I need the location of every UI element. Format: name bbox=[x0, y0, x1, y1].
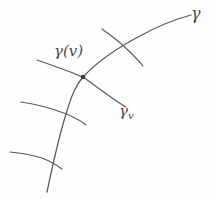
transversal-middle-left-curve bbox=[21, 102, 86, 125]
label-gamma-sub-v: γv bbox=[119, 104, 134, 121]
transversal-upper-left-curve bbox=[37, 60, 83, 77]
transversal-upper-right-curve bbox=[102, 29, 143, 66]
label-gamma-of-v: γ(v) bbox=[54, 44, 83, 59]
label-gamma-sub-v-subscript: v bbox=[128, 110, 134, 121]
geometry-figure: γ γ(v) γv bbox=[0, 0, 216, 199]
label-gamma: γ bbox=[191, 6, 201, 22]
label-gamma-sub-v-base: γ bbox=[119, 102, 128, 120]
figure-canvas bbox=[0, 0, 216, 199]
marked-point-dot bbox=[81, 75, 86, 80]
